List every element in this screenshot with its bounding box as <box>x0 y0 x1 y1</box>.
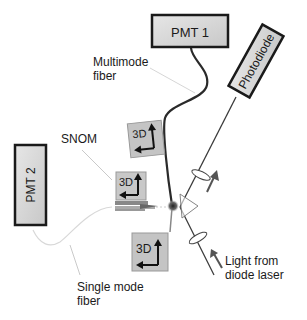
snom-leader <box>82 150 112 180</box>
multimode-fiber-label-line1: Multimode <box>93 55 149 69</box>
incoming-light-arrow-icon <box>210 249 222 268</box>
snom-probe-icon <box>115 201 158 211</box>
stage-top-label: 3D <box>132 127 147 140</box>
single-mode-fiber-label-line1: Single mode <box>77 280 144 294</box>
3d-stage-bottom: 3D <box>132 233 168 271</box>
stage-snom-label: 3D <box>119 176 133 188</box>
prism-icon <box>180 194 198 218</box>
3d-stage-top: 3D <box>127 120 164 157</box>
multimode-fiber-label-line2: fiber <box>93 69 116 83</box>
photodiode-box: Photodiode <box>229 25 284 98</box>
3d-stage-snom: 3D <box>116 172 146 200</box>
single-mode-leader <box>70 245 80 275</box>
stage-bottom-label: 3D <box>136 242 152 256</box>
single-mode-fiber-label-line2: fiber <box>77 294 100 308</box>
pmt1-label: PMT 1 <box>171 25 209 40</box>
light-source-label-line2: diode laser <box>225 268 284 282</box>
multimode-leader <box>150 68 195 93</box>
pmt2-box: PMT 2 <box>15 145 46 225</box>
multimode-fiber-line <box>164 48 207 205</box>
sample-spot-icon <box>167 200 179 212</box>
pmt2-label: PMT 2 <box>24 167 38 202</box>
beam-direction-arrow-icon <box>207 170 219 192</box>
snom-label: SNOM <box>61 132 97 146</box>
setup-diagram: PMT 1 Photodiode PMT 2 3D 3D <box>0 0 307 320</box>
pmt1-box: PMT 1 <box>152 15 228 47</box>
light-source-label-line1: Light from <box>225 254 278 268</box>
